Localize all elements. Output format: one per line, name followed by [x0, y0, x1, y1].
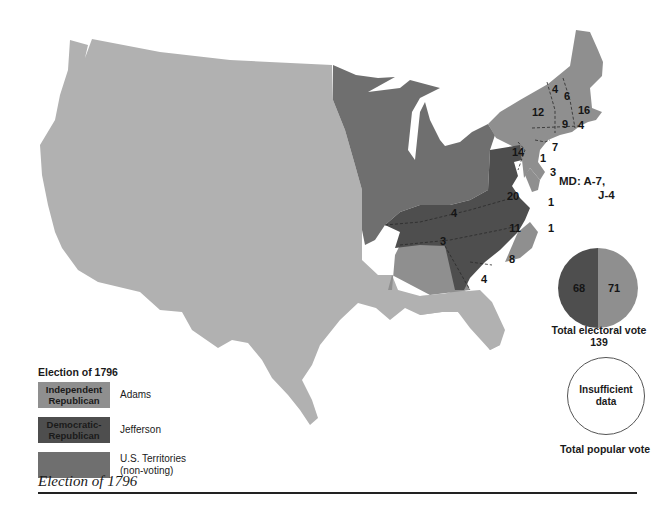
vote-nc: 11 — [509, 222, 521, 234]
vote-pa-adams: 1 — [540, 152, 546, 164]
vote-ri: 4 — [578, 119, 585, 131]
legend-label-adams: Adams — [120, 389, 151, 401]
vote-ny: 12 — [532, 106, 544, 118]
popular-vote-circle: Insufficient data — [567, 357, 645, 435]
electoral-total: 139 — [539, 336, 659, 348]
caption-rule — [38, 492, 637, 494]
vote-pa: 14 — [512, 146, 525, 158]
popular-vote-text: Insufficient data — [578, 384, 634, 408]
legend-item-adams: Independent Republican Adams — [38, 382, 200, 408]
electoral-pie-chart: 68 71 — [558, 248, 638, 328]
md-note-line2: J-4 — [559, 188, 615, 202]
vote-ct: 9 — [562, 118, 568, 130]
legend-swatch-jefferson: Democratic-Republican — [38, 417, 110, 443]
vote-sc: 8 — [509, 253, 515, 265]
vote-nc-adams: 1 — [548, 222, 554, 234]
vote-ga: 4 — [481, 273, 488, 285]
electoral-vote-caption: Total electoral vote 139 — [539, 324, 659, 348]
legend: Election of 1796 Independent Republican … — [38, 366, 200, 487]
vote-ma: 16 — [578, 104, 590, 116]
spanish-florida — [420, 290, 505, 350]
legend-title: Election of 1796 — [38, 366, 200, 378]
legend-swatch-adams: Independent Republican — [38, 382, 110, 408]
vote-nh: 6 — [564, 90, 570, 102]
vote-nj: 7 — [552, 141, 558, 153]
figure-caption: Election of 1796 — [38, 473, 137, 490]
electoral-caption-text: Total electoral vote — [539, 324, 659, 336]
legend-item-jefferson: Democratic-Republican Jefferson — [38, 417, 200, 443]
vote-va-adams: 1 — [548, 196, 554, 208]
pie-adams-value: 71 — [608, 282, 620, 294]
vote-vt: 4 — [552, 83, 559, 95]
vote-de: 3 — [550, 166, 556, 178]
vote-va: 20 — [507, 190, 519, 202]
popular-vote-caption: Total popular vote — [555, 443, 655, 455]
pie-jefferson-value: 68 — [573, 282, 585, 294]
vote-tn: 3 — [440, 235, 446, 247]
vote-ky: 4 — [451, 207, 458, 219]
maryland-split-note: MD: A-7, J-4 — [559, 174, 615, 202]
md-note-line1: MD: A-7, — [559, 174, 615, 188]
legend-label-jefferson: Jefferson — [120, 424, 161, 436]
